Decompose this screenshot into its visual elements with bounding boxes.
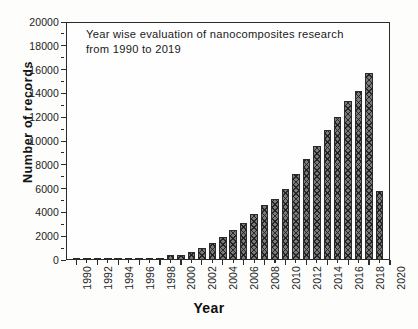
x-axis-tick-label: 2008 xyxy=(269,266,281,290)
x-axis-tick xyxy=(222,260,223,265)
x-axis-minor-tick xyxy=(170,260,171,263)
x-axis-tick xyxy=(76,260,77,265)
x-axis-minor-tick xyxy=(233,260,234,263)
x-axis-minor-tick xyxy=(254,260,255,263)
x-axis-tick-label: 2006 xyxy=(248,266,260,290)
bar xyxy=(344,101,352,260)
x-axis-tick-label: 2016 xyxy=(353,266,365,290)
bar xyxy=(292,174,300,260)
bar xyxy=(376,191,384,260)
x-axis-minor-tick xyxy=(128,260,129,263)
x-axis-tick xyxy=(118,260,119,265)
y-axis-tick-label: 6000 xyxy=(35,183,66,195)
bar xyxy=(324,130,332,260)
x-axis-minor-tick xyxy=(358,260,359,263)
x-axis-tick-label: 2010 xyxy=(290,266,302,290)
x-axis-tick-label: 1992 xyxy=(102,266,114,290)
x-axis-minor-tick xyxy=(295,260,296,263)
y-axis-tick-label: 20000 xyxy=(29,16,66,28)
x-axis-tick xyxy=(159,260,160,265)
bar xyxy=(334,117,342,260)
x-axis-tick xyxy=(368,260,369,265)
x-axis-tick xyxy=(389,260,390,265)
chart-figure: Year wise evaluation of nanocomposites r… xyxy=(0,0,418,329)
x-axis-tick-label: 2000 xyxy=(185,266,197,290)
y-axis-minor-tick xyxy=(61,152,64,153)
x-axis-minor-tick xyxy=(149,260,150,263)
bar xyxy=(219,237,227,260)
y-axis-tick-label: 8000 xyxy=(35,159,66,171)
bar xyxy=(198,248,206,260)
y-axis-title: Number of records xyxy=(21,32,35,212)
x-axis-minor-tick xyxy=(212,260,213,263)
bar xyxy=(261,205,269,260)
x-axis-minor-tick xyxy=(274,260,275,263)
y-axis-minor-tick xyxy=(61,81,64,82)
x-axis-tick-label: 2018 xyxy=(374,266,386,290)
x-axis-tick-label: 2014 xyxy=(332,266,344,290)
x-axis-minor-tick xyxy=(337,260,338,263)
x-axis-tick xyxy=(139,260,140,265)
bar xyxy=(303,159,311,260)
x-axis-minor-tick xyxy=(191,260,192,263)
x-axis-tick xyxy=(306,260,307,265)
y-axis-minor-tick xyxy=(61,248,64,249)
bar-series xyxy=(66,22,390,260)
x-axis-tick-label: 2020 xyxy=(395,266,407,290)
y-axis-minor-tick xyxy=(61,200,64,201)
x-axis-minor-tick xyxy=(379,260,380,263)
y-axis-minor-tick xyxy=(61,176,64,177)
x-axis-tick-label: 2004 xyxy=(227,266,239,290)
bar xyxy=(188,252,196,260)
bar xyxy=(313,146,321,260)
bar xyxy=(250,214,258,260)
y-axis-tick-label: 0 xyxy=(53,254,66,266)
x-axis-minor-tick xyxy=(86,260,87,263)
x-axis-tick xyxy=(97,260,98,265)
bar xyxy=(229,230,237,260)
y-axis-minor-tick xyxy=(61,57,64,58)
x-axis-tick xyxy=(348,260,349,265)
bar xyxy=(240,223,248,260)
x-axis-tick xyxy=(180,260,181,265)
x-axis-tick xyxy=(243,260,244,265)
bar xyxy=(355,91,363,260)
x-axis-tick-label: 2002 xyxy=(206,266,218,290)
bar xyxy=(365,73,373,260)
y-axis-tick-label: 4000 xyxy=(35,206,66,218)
x-axis-minor-tick xyxy=(107,260,108,263)
y-axis-tick-label: 2000 xyxy=(35,230,66,242)
x-axis-tick-label: 2012 xyxy=(311,266,323,290)
x-axis-tick-label: 1998 xyxy=(165,266,177,290)
y-axis-minor-tick xyxy=(61,33,64,34)
x-axis-tick-label: 1990 xyxy=(81,266,93,290)
y-axis-minor-tick xyxy=(61,105,64,106)
x-axis-tick-label: 1994 xyxy=(123,266,135,290)
x-axis-minor-tick xyxy=(316,260,317,263)
x-axis-tick xyxy=(285,260,286,265)
y-axis-minor-tick xyxy=(61,129,64,130)
x-axis-tick xyxy=(201,260,202,265)
x-axis-tick xyxy=(264,260,265,265)
x-axis-tick xyxy=(327,260,328,265)
x-axis-tick-label: 1996 xyxy=(144,266,156,290)
bar xyxy=(271,199,279,260)
bar xyxy=(282,189,290,260)
x-axis-title: Year xyxy=(0,300,418,316)
y-axis-minor-tick xyxy=(61,224,64,225)
bar xyxy=(209,243,217,260)
